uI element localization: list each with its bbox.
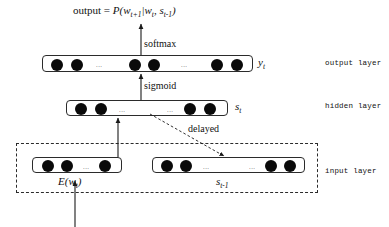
input-recurrent-node	[284, 160, 296, 172]
output-layer-box: ... ...	[42, 55, 253, 72]
output-layer-ellipsis: ...	[181, 62, 188, 68]
diagram-canvas: output = P(wt+1|wt, st-1) softmax ... ..…	[0, 0, 389, 227]
hidden-layer-box: ... ...	[66, 100, 228, 116]
input-embedding-node	[99, 160, 111, 172]
layer-name-hidden: hidden layer	[325, 103, 381, 111]
output-layer-node	[148, 59, 160, 71]
input-embedding-node	[61, 160, 73, 172]
input-recurrent-node	[161, 160, 173, 172]
output-formula-comma: , s	[154, 4, 164, 16]
layer-name-output: output layer	[325, 60, 381, 68]
hidden-layer-ellipsis: ...	[119, 107, 126, 113]
hidden-layer-node	[75, 103, 87, 115]
input-recurrent-box: ... ...	[152, 157, 305, 173]
output-layer-symbol-sub: t	[263, 62, 265, 71]
output-layer-node	[129, 59, 141, 71]
input-recurrent-ellipsis: ...	[249, 164, 256, 170]
hidden-layer-symbol: st	[235, 101, 241, 115]
hidden-layer-symbol-sub: t	[239, 106, 241, 115]
sigmoid-label: sigmoid	[144, 81, 176, 91]
output-formula: output = P(wt+1|wt, st-1)	[73, 5, 176, 19]
input-recurrent-symbol-sub: t-1	[220, 181, 228, 190]
input-embedding-ellipsis: ...	[83, 164, 90, 170]
output-formula-sub1: t+1	[131, 10, 142, 19]
hidden-layer-node	[95, 103, 107, 115]
input-embedding-symbol-base: E(w	[58, 175, 76, 187]
output-layer-symbol: yt	[258, 57, 265, 71]
output-formula-mid: |w	[141, 4, 151, 16]
output-formula-sub3: t-1	[164, 10, 172, 19]
output-formula-prefix: output =	[73, 4, 113, 16]
input-recurrent-node	[180, 160, 192, 172]
input-embedding-symbol: E(wt)	[58, 176, 81, 190]
output-formula-body: P(w	[113, 4, 131, 16]
layer-name-input: input layer	[325, 168, 377, 176]
input-embedding-symbol-suffix: )	[78, 175, 82, 187]
output-formula-suffix: )	[172, 4, 176, 16]
output-layer-node	[231, 59, 243, 71]
output-layer-node	[71, 59, 83, 71]
output-layer-node	[211, 59, 223, 71]
delayed-label: delayed	[188, 124, 219, 134]
input-embedding-node	[42, 160, 54, 172]
input-recurrent-node	[265, 160, 277, 172]
input-embedding-box: ...	[32, 157, 122, 173]
input-recurrent-symbol: st-1	[216, 176, 229, 190]
softmax-label: softmax	[144, 39, 176, 49]
hidden-layer-ellipsis: ...	[167, 107, 174, 113]
output-layer-ellipsis: ...	[96, 62, 103, 68]
input-recurrent-ellipsis: ...	[203, 164, 210, 170]
output-layer-node	[51, 59, 63, 71]
hidden-layer-node	[184, 103, 196, 115]
hidden-layer-node	[204, 103, 216, 115]
